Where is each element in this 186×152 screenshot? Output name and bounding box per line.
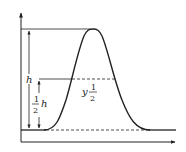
half-denominator: 2 <box>33 106 38 115</box>
half-numerator: 1 <box>34 95 39 104</box>
y-half-denominator: 2 <box>90 94 95 103</box>
y-half-var: y <box>81 86 88 97</box>
peak-curve <box>44 29 150 130</box>
peak-diagram: h 1 2 h y 1 2 <box>0 0 186 152</box>
y-half-numerator: 1 <box>91 83 96 92</box>
h-label: h <box>26 74 32 85</box>
half-h-label: h <box>41 98 47 109</box>
